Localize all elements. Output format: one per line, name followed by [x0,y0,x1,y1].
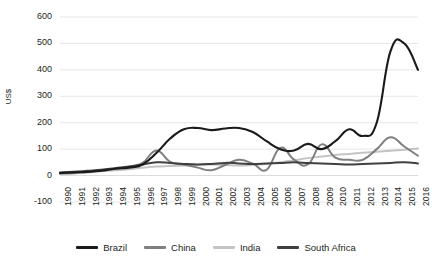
x-axis-tick-label: 2012 [367,187,376,206]
legend-line-swatch [144,246,166,249]
x-axis-tick-label: 2008 [312,187,321,206]
x-axis-tick-label: 2009 [326,187,335,206]
x-axis-tick-label: 2005 [271,187,280,206]
legend-item-south-africa[interactable]: South Africa [277,242,355,253]
x-axis-tick-label: 2016 [422,187,431,206]
legend-item-india[interactable]: India [213,242,261,253]
x-axis-tick-label: 2000 [202,187,211,206]
x-axis-tick-label: 1995 [133,187,142,206]
x-axis-tick-label: 1994 [119,187,128,206]
legend-line-swatch [213,246,235,249]
x-axis-tick-label: 2001 [215,187,224,206]
x-axis-tick-label: 2013 [381,187,390,206]
legend-label: South Africa [304,242,355,253]
x-axis-tick-label: 2007 [298,187,307,206]
x-axis-tick-label: 1992 [92,187,101,206]
x-axis-tick-label: 1999 [188,187,197,206]
x-axis-tick-label: 2010 [339,187,348,206]
x-axis-tick-label: 2002 [229,187,238,206]
chart-legend: BrazilChinaIndiaSouth Africa [0,242,432,253]
x-axis-tick-label: 2003 [243,187,252,206]
legend-label: Brazil [103,242,127,253]
x-axis-tick-label: 2011 [353,188,362,206]
plot-area [0,0,432,265]
x-axis-tick-label: 2014 [394,187,403,206]
x-axis-tick-label: 1998 [174,187,183,206]
legend-item-china[interactable]: China [144,242,196,253]
legend-label: China [171,242,196,253]
x-axis-tick-label: 2015 [408,187,417,206]
legend-line-swatch [277,246,299,249]
legend-line-swatch [76,246,98,249]
x-axis-tick-label: 2006 [284,187,293,206]
x-axis-tick-label: 1991 [78,187,87,206]
x-axis-tick-label: 1990 [64,187,73,206]
series-line-india [60,149,418,175]
x-axis-tick-label: 1996 [147,187,156,206]
legend-item-brazil[interactable]: Brazil [76,242,127,253]
x-axis-tick-label: 2004 [257,187,266,206]
line-chart: US$ -1000100200300400500600 199019911992… [0,0,432,265]
x-axis-tick-label: 1993 [105,187,114,206]
x-axis-tick-label: 1997 [160,187,169,206]
legend-label: India [240,242,261,253]
